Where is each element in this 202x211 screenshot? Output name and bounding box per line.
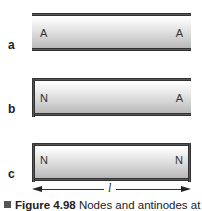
tube-c-left-end-wall: [32, 143, 35, 182]
tube-a-interior: [32, 17, 191, 48]
length-arrow-right-line: [116, 189, 182, 190]
tube-c-interior: [32, 147, 191, 178]
length-symbol: l: [108, 181, 111, 196]
tube-c: N N: [32, 143, 191, 183]
tube-b: N A: [32, 78, 191, 118]
caption-text: Nodes and antinodes at: [76, 199, 201, 211]
caption-square-icon: [4, 201, 11, 208]
tube-b-left-end-wall: [32, 78, 35, 117]
tube-a: A A: [32, 13, 191, 53]
tube-a-left-node: A: [40, 27, 47, 39]
tube-c-right-node: N: [175, 154, 183, 166]
tube-c-left-node: N: [40, 154, 48, 166]
figure-number: Figure 4.98: [15, 199, 76, 211]
length-arrow-left-line: [40, 189, 104, 190]
tube-a-top-wall: [32, 13, 191, 16]
tube-b-interior: [32, 82, 191, 113]
tube-c-top-wall: [32, 143, 191, 146]
tube-b-left-node: N: [40, 92, 48, 104]
tube-b-bottom-wall: [32, 113, 191, 116]
tube-a-right-node: A: [176, 27, 183, 39]
tube-b-right-node: A: [176, 92, 183, 104]
figure-caption: Figure 4.98 Nodes and antinodes at: [4, 199, 200, 211]
tube-b-label: b: [8, 102, 15, 116]
length-arrow-right-head: [181, 186, 191, 192]
tube-c-label: c: [8, 167, 15, 181]
tube-c-bottom-wall: [32, 178, 191, 181]
tube-b-top-wall: [32, 78, 191, 81]
tube-a-label: a: [8, 38, 15, 52]
tube-c-right-end-wall: [188, 143, 191, 182]
tube-a-bottom-wall: [32, 48, 191, 51]
